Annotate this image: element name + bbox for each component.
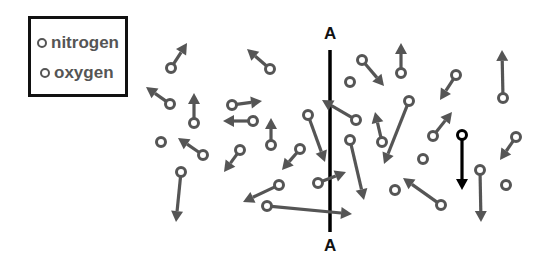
arrowhead-icon bbox=[265, 118, 277, 129]
molecule bbox=[502, 181, 511, 190]
molecule-circle-icon bbox=[157, 138, 166, 147]
molecule-circle-icon bbox=[263, 202, 272, 211]
velocity-arrow-shaft bbox=[506, 141, 513, 151]
molecule bbox=[223, 115, 258, 127]
molecule-circle-icon bbox=[167, 64, 176, 73]
velocity-arrow-shaft bbox=[173, 52, 181, 64]
molecule bbox=[500, 133, 521, 161]
molecule bbox=[243, 181, 284, 203]
velocity-arrow-shaft bbox=[187, 144, 199, 152]
velocity-arrow-shaft bbox=[388, 105, 407, 154]
molecule bbox=[475, 166, 487, 223]
molecule-circle-icon bbox=[458, 131, 467, 140]
molecule bbox=[358, 56, 385, 87]
molecule bbox=[146, 87, 175, 109]
arrowhead-icon bbox=[395, 43, 407, 54]
arrowhead-icon bbox=[223, 115, 234, 127]
velocity-arrow-shaft bbox=[289, 152, 297, 161]
molecule bbox=[265, 118, 277, 150]
velocity-arrow-shaft bbox=[502, 61, 503, 94]
velocity-arrow-shaft bbox=[331, 106, 352, 118]
velocity-arrow-shaft bbox=[253, 187, 275, 197]
arrowhead-icon bbox=[171, 210, 183, 222]
molecule bbox=[263, 202, 353, 219]
velocity-arrow-shaft bbox=[365, 63, 377, 77]
molecule-circle-icon bbox=[267, 141, 276, 150]
molecule-circle-icon bbox=[314, 179, 323, 188]
molecule-circle-icon bbox=[502, 181, 511, 190]
arrowhead-icon bbox=[496, 50, 508, 61]
velocity-arrow-shaft bbox=[230, 154, 237, 163]
arrowhead-icon bbox=[372, 112, 384, 124]
molecule bbox=[395, 43, 407, 78]
molecule bbox=[346, 78, 355, 87]
molecule-circle-icon bbox=[249, 117, 258, 126]
molecule-circle-icon bbox=[346, 136, 355, 145]
oxygen-marker-icon bbox=[40, 68, 50, 78]
molecule bbox=[188, 93, 200, 128]
molecule bbox=[440, 71, 461, 101]
molecule bbox=[496, 50, 508, 103]
molecule bbox=[167, 43, 188, 73]
molecule bbox=[403, 178, 446, 210]
arrowhead-icon bbox=[475, 211, 487, 222]
velocity-arrow-shaft bbox=[351, 144, 361, 189]
molecule-highlighted bbox=[456, 131, 468, 191]
boundary-label-top: A bbox=[324, 24, 336, 44]
molecule-circle-icon bbox=[304, 111, 313, 120]
molecule bbox=[224, 146, 245, 173]
molecule-circle-icon bbox=[296, 145, 305, 154]
velocity-arrow-shaft bbox=[155, 93, 166, 101]
molecule-circle-icon bbox=[199, 151, 208, 160]
molecule-circle-icon bbox=[419, 155, 428, 164]
molecule-circle-icon bbox=[166, 100, 175, 109]
molecule-circle-icon bbox=[476, 166, 485, 175]
legend-label-oxygen: oxygen bbox=[54, 63, 114, 83]
arrowhead-icon bbox=[250, 97, 262, 109]
molecule bbox=[178, 138, 208, 160]
velocity-arrow-shaft bbox=[310, 119, 322, 151]
velocity-arrow-shaft bbox=[177, 176, 180, 211]
velocity-arrow-shaft bbox=[446, 79, 454, 91]
molecule bbox=[247, 49, 275, 74]
boundary-label-bottom: A bbox=[324, 236, 336, 256]
legend-item-oxygen: oxygen bbox=[40, 63, 114, 83]
molecules bbox=[146, 43, 521, 222]
molecule-circle-icon bbox=[358, 56, 367, 65]
molecule bbox=[157, 138, 166, 147]
molecule bbox=[346, 136, 368, 201]
molecule-circle-icon bbox=[190, 119, 199, 128]
molecule bbox=[391, 186, 400, 195]
velocity-arrow-shaft bbox=[436, 121, 445, 133]
molecule bbox=[171, 168, 185, 223]
molecule-circle-icon bbox=[499, 94, 508, 103]
legend-item-nitrogen: nitrogen bbox=[37, 33, 119, 53]
molecule-circle-icon bbox=[346, 78, 355, 87]
molecule-circle-icon bbox=[275, 181, 284, 190]
molecule-circle-icon bbox=[452, 71, 461, 80]
arrowhead-icon bbox=[456, 179, 468, 190]
molecule-circle-icon bbox=[437, 201, 446, 210]
molecule-circle-icon bbox=[266, 65, 275, 74]
molecule-circle-icon bbox=[512, 133, 521, 142]
velocity-arrow-shaft bbox=[255, 56, 266, 66]
molecule bbox=[429, 112, 453, 141]
molecule-circle-icon bbox=[429, 132, 438, 141]
molecule-circle-icon bbox=[397, 69, 406, 78]
molecule-circle-icon bbox=[177, 168, 186, 177]
molecule-circle-icon bbox=[378, 138, 387, 147]
molecule bbox=[419, 155, 428, 164]
molecule-circle-icon bbox=[391, 186, 400, 195]
molecule bbox=[322, 100, 361, 125]
legend: nitrogen oxygen bbox=[28, 16, 128, 97]
molecule-circle-icon bbox=[405, 97, 414, 106]
arrowhead-icon bbox=[340, 207, 352, 219]
molecule-diagram: nitrogen oxygen A A bbox=[0, 0, 548, 271]
molecule bbox=[304, 111, 327, 163]
legend-label-nitrogen: nitrogen bbox=[51, 33, 119, 53]
arrowhead-icon bbox=[356, 188, 368, 200]
nitrogen-marker-icon bbox=[37, 38, 47, 48]
arrowhead-icon bbox=[188, 93, 200, 104]
molecule-circle-icon bbox=[228, 101, 237, 110]
velocity-arrow-shaft bbox=[377, 123, 380, 138]
